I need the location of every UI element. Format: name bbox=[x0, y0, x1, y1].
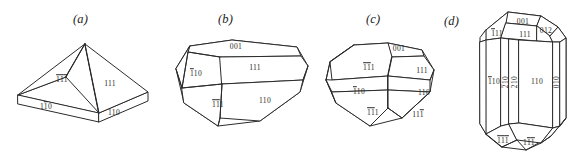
panel-a: (a) 111 111 110 110 bbox=[0, 0, 160, 159]
face-111bar-upper-left bbox=[330, 43, 392, 80]
face-111bar bbox=[182, 84, 222, 126]
face-left-edge-prism bbox=[480, 40, 486, 134]
face-210-prism bbox=[509, 39, 519, 124]
panel-a-crystal-drawing bbox=[0, 0, 160, 159]
panel-b-crystal-drawing bbox=[160, 0, 310, 159]
face-111 bbox=[220, 56, 308, 84]
panel-c-crystal-drawing bbox=[310, 0, 445, 159]
face-110 bbox=[220, 80, 303, 121]
face-110bar-prism bbox=[486, 38, 501, 134]
panel-d: (d) bbox=[445, 0, 575, 159]
crystal-habit-figure: (a) 111 111 110 110 (b) bbox=[0, 0, 575, 159]
panel-d-crystal-drawing bbox=[445, 0, 575, 159]
panel-b: (b) 001 110 111 111 110 bbox=[160, 0, 310, 159]
face-001-band bbox=[388, 43, 424, 57]
face-010-prism bbox=[553, 42, 560, 128]
face-210bar-prism bbox=[501, 38, 509, 126]
face-110-prism bbox=[519, 40, 553, 128]
face-right-edge-prism bbox=[560, 38, 566, 126]
panel-c: (c) bbox=[310, 0, 445, 159]
